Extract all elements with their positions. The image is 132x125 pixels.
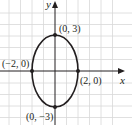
label-bottom: (0, −3) (26, 111, 53, 123)
x-axis-label: x (119, 74, 125, 86)
label-right: (2, 0) (80, 75, 102, 87)
y-axis-arrow-icon (52, 1, 58, 8)
point-left (30, 69, 34, 73)
point-bottom (53, 105, 57, 109)
point-right (76, 69, 80, 73)
label-top: (0, 3) (59, 23, 81, 35)
y-axis-label: y (45, 0, 51, 10)
ellipse-diagram: y x (0, 3) (−2, 0) (2, 0) (0, −3) (0, 0, 132, 125)
point-top (53, 33, 57, 37)
label-left: (−2, 0) (2, 58, 29, 70)
